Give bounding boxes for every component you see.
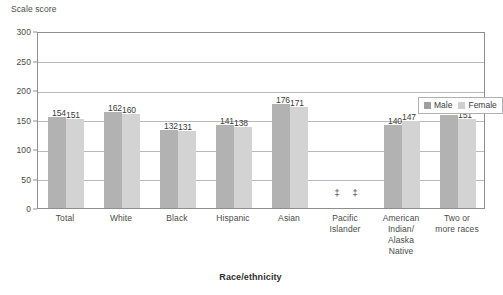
bar-value-label: 132 <box>160 121 178 131</box>
x-axis-category-label: Two or more races <box>421 213 493 235</box>
bar-female <box>122 114 140 208</box>
bar-male <box>104 112 122 208</box>
y-axis-tick-label: 300 <box>5 27 31 37</box>
bar-value-label: 138 <box>234 118 252 128</box>
y-axis-tick-label: 150 <box>5 116 31 126</box>
y-axis-tick-label: 200 <box>5 86 31 96</box>
bar-value-label: 141 <box>216 116 234 126</box>
bar-female <box>458 119 476 208</box>
bar-value-label: 160 <box>122 105 140 115</box>
suppressed-value-marker: ‡ <box>349 188 361 198</box>
bar-female <box>178 131 196 208</box>
suppressed-value-marker: ‡ <box>331 188 343 198</box>
bar-male <box>216 125 234 208</box>
bar-value-label: 140 <box>384 116 402 126</box>
legend-swatch-male-icon <box>424 102 431 109</box>
bar-male <box>440 115 458 208</box>
legend-label-male: Male <box>434 100 452 110</box>
legend-swatch-female-icon <box>458 102 465 109</box>
y-axis-tick-label: 100 <box>5 145 31 155</box>
legend-label-female: Female <box>468 100 496 110</box>
gridline <box>38 92 484 93</box>
bar-female <box>66 119 84 208</box>
bar-value-label: 154 <box>48 108 66 118</box>
bar-female <box>402 121 420 208</box>
legend-item-female: Female <box>458 100 496 110</box>
y-axis-tick-label: 50 <box>5 175 31 185</box>
x-axis-title: Race/ethnicity <box>0 272 501 282</box>
y-axis-title: Scale score <box>11 4 57 14</box>
bar-value-label: 162 <box>104 103 122 113</box>
bar-male <box>384 125 402 208</box>
plot-area: 154151162160132131141138176171‡‡14014715… <box>37 32 485 209</box>
bar-value-label: 131 <box>178 122 196 132</box>
bar-male <box>160 130 178 208</box>
bar-female <box>290 107 308 208</box>
bar-male <box>272 104 290 208</box>
bar-female <box>234 127 252 208</box>
bar-value-label: 171 <box>290 98 308 108</box>
bar-male <box>48 117 66 208</box>
bar-value-label: 151 <box>66 110 84 120</box>
y-axis-tick-label: 250 <box>5 57 31 67</box>
y-axis-tick-label: 0 <box>5 204 31 214</box>
legend-item-male: Male <box>424 100 452 110</box>
bar-value-label: 176 <box>272 95 290 105</box>
gridline <box>38 62 484 63</box>
chart-legend: Male Female <box>418 97 503 114</box>
plot-inner: 154151162160132131141138176171‡‡14014715… <box>38 33 484 208</box>
